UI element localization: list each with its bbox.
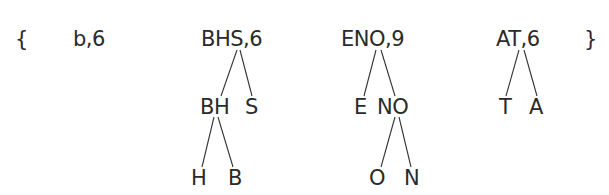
- edge-no-o: [381, 117, 395, 167]
- node-n: N: [404, 167, 419, 189]
- node-h: H: [191, 167, 206, 189]
- edge-bh-h: [202, 117, 214, 167]
- node-b: B: [228, 167, 242, 189]
- open-brace: {: [15, 28, 28, 50]
- edge-at-a: [524, 50, 537, 96]
- node-o: O: [369, 167, 385, 189]
- edge-bh-b: [218, 117, 233, 167]
- edge-bhs-s: [240, 50, 252, 96]
- edge-no-n: [399, 117, 411, 167]
- tree-root-bhs: BHS,6: [201, 28, 262, 50]
- node-t: T: [499, 96, 511, 118]
- edge-at-t: [506, 50, 519, 96]
- node-no: NO: [377, 96, 408, 118]
- edge-eno-e: [364, 50, 376, 96]
- close-brace: }: [584, 28, 597, 50]
- node-e: E: [354, 96, 367, 118]
- edge-bhs-bh: [221, 50, 237, 96]
- tree-root-eno: ENO,9: [341, 28, 404, 50]
- tree-root-at: AT,6: [496, 28, 540, 50]
- node-a: A: [529, 96, 543, 118]
- node-s: S: [245, 96, 258, 118]
- tree-root-b: b,6: [73, 28, 105, 50]
- edge-eno-no: [381, 50, 395, 96]
- node-bh: BH: [200, 96, 229, 118]
